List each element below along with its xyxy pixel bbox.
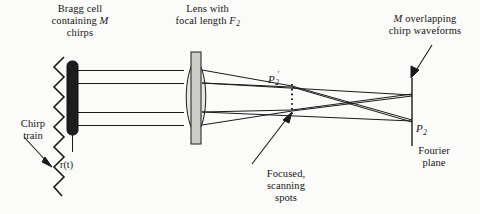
crossing-beam-group (202, 83, 412, 122)
fourier-line1: Fourier (418, 145, 450, 156)
bragg-cell-line2-italic: M (100, 15, 109, 26)
chirp-train-line1: Chirp (21, 118, 45, 129)
optical-diagram: Bragg cell containing M chirps Lens with… (0, 0, 480, 214)
collimated-beam-group (76, 70, 184, 125)
label-overlapping-waveforms: M overlapping chirp waveforms (372, 13, 478, 37)
p2-prime-subscript: 2 (275, 78, 279, 87)
focused-line1: Focused, (267, 168, 305, 179)
overlapping-line2: chirp waveforms (389, 25, 461, 36)
overlapping-arrow-shaft (415, 45, 432, 72)
p2-prime-symbol: P (268, 73, 275, 85)
converging-ray-3 (202, 110, 292, 112)
p2-subscript: 2 (423, 128, 427, 137)
crossing-ray-5 (202, 83, 412, 95)
crossing-ray-4 (292, 96, 412, 111)
lens-mount-bar (191, 52, 201, 144)
label-p2-plane: P2 (416, 122, 446, 134)
fourier-line2: plane (422, 157, 445, 168)
bragg-cell-line3: chirps (67, 27, 93, 38)
annotation-arrows (24, 45, 432, 167)
bragg-cell-line1: Bragg cell (58, 3, 102, 14)
label-lens: Lens with focal length F2 (145, 3, 270, 27)
focused-spots-arrow-shaft (252, 117, 288, 164)
label-bragg-cell: Bragg cell containing M chirps (24, 3, 136, 38)
p2-prime-mark: ′ (278, 70, 280, 79)
crossing-ray-3 (292, 94, 412, 110)
label-chirp-train: Chirp train (6, 118, 60, 142)
p2-symbol: P (416, 122, 423, 134)
label-focused-spots: Focused, scanning spots (248, 168, 324, 203)
focused-line2: scanning (267, 180, 305, 191)
bragg-cell-line2-pre: containing (52, 15, 100, 26)
focused-line3: spots (275, 192, 297, 203)
bragg-cell-block (67, 61, 78, 135)
label-p2-prime-plane: P2′ (268, 72, 298, 85)
converging-ray-4 (202, 111, 292, 125)
label-fourier-plane: Fourier plane (400, 145, 468, 169)
label-input-signal: r(t) (60, 159, 90, 170)
overlapping-line1-post: overlapping (402, 13, 456, 24)
lens-focal-symbol: F (229, 15, 236, 26)
lens-line2-pre: focal length (175, 15, 229, 26)
lens-assembly (186, 52, 206, 144)
lens-line1: Lens with (186, 3, 229, 14)
lens-focal-subscript: 2 (236, 19, 240, 28)
chirp-train-line2: train (23, 130, 43, 141)
